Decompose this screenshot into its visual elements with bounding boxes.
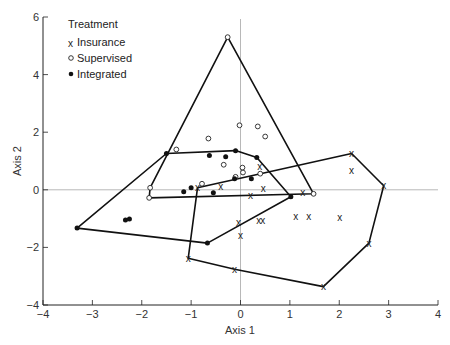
open-circle-icon [221,162,226,167]
x-marker-icon: x [349,165,354,176]
x-tick-label: 2 [336,308,342,320]
open-circle-icon [200,181,205,186]
open-circle-icon [255,124,260,129]
y-tick-label: 0 [33,184,39,196]
supervised-hull [149,37,313,198]
open-circle-icon [225,35,230,40]
open-circle-icon [240,165,245,170]
scatter-chart: xxxxxxxxxxxxxxxxxxxx −4−3−2−101234 −4−20… [0,0,450,345]
filled-circle-icon [254,155,259,160]
x-marker-icon: x [321,281,326,292]
filled-circle-icon [127,216,132,221]
y-tick-label: 2 [33,126,39,138]
legend-item-insurance: x Insurance [68,36,125,49]
legend-item-integrated: Integrated [69,68,127,80]
open-circle-icon [263,134,268,139]
filled-circle-icon [211,190,216,195]
open-circle-icon [147,195,152,200]
filled-circle-icon [232,176,237,181]
x-marker-icon: x [232,264,237,275]
legend-item-supervised: Supervised [69,52,132,64]
filled-circle-icon [233,148,238,153]
x-axis: −4−3−2−101234 [37,300,441,320]
x-tick-label: 3 [386,308,392,320]
x-marker-icon: x [381,180,386,191]
filled-circle-icon [69,72,74,77]
open-circle-icon [311,191,316,196]
insurance-points: xxxxxxxxxxxxxxxxxxxx [186,148,387,292]
filled-circle-icon [205,241,210,246]
open-circle-icon [206,136,211,141]
open-circle-icon [148,185,153,190]
filled-circle-icon [164,151,169,156]
x-tick-label: 4 [435,308,441,320]
filled-circle-icon [288,194,293,199]
legend-label: Integrated [77,68,127,80]
filled-circle-icon [181,189,186,194]
x-tick-label: 1 [287,308,293,320]
x-tick-label: 0 [237,308,243,320]
legend-title: Treatment [68,18,118,30]
filled-circle-icon [207,153,212,158]
y-axis: −4−20246 [26,11,48,311]
x-tick-label: −1 [185,308,198,320]
y-tick-label: −4 [26,299,39,311]
legend: Treatment x Insurance Supervised Integra… [68,18,132,80]
x-marker-icon: x [337,212,342,223]
x-axis-label: Axis 1 [225,324,255,336]
x-marker-icon: x [238,230,243,241]
x-marker-icon: x [261,183,266,194]
filled-circle-icon [249,176,254,181]
x-marker-icon: x [306,211,311,222]
filled-circle-icon [223,154,228,159]
x-marker-icon: x [349,148,354,159]
x-marker-icon: x [68,38,73,49]
y-tick-label: −2 [26,241,39,253]
open-circle-icon [69,56,74,61]
y-tick-label: 6 [33,11,39,23]
x-marker-icon: x [300,187,305,198]
open-circle-icon [174,147,179,152]
open-circle-icon [258,171,263,176]
y-axis-label: Axis 2 [11,146,23,176]
x-tick-label: −3 [86,308,99,320]
insurance-hull [188,154,384,287]
filled-circle-icon [75,226,80,231]
x-marker-icon: x [186,253,191,264]
x-marker-icon: x [366,238,371,249]
filled-circle-icon [189,185,194,190]
legend-label: Supervised [77,52,132,64]
open-circle-icon [237,123,242,128]
x-marker-icon: x [260,215,265,226]
legend-label: Insurance [77,36,125,48]
x-marker-icon: x [293,211,298,222]
x-marker-icon: x [236,217,241,228]
x-marker-icon: x [248,190,253,201]
supervised-points [147,35,316,201]
x-marker-icon: x [257,161,262,172]
open-circle-icon [241,170,246,175]
x-marker-icon: x [218,181,223,192]
x-tick-label: −2 [135,308,148,320]
y-tick-label: 4 [33,69,39,81]
